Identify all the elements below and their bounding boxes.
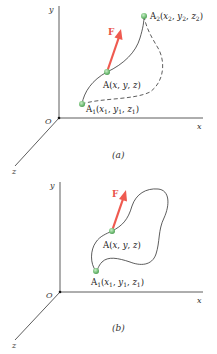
point-a-b [109,228,115,234]
origin-label-b: O [46,291,53,300]
force-arrow-b [112,199,123,231]
point-a1-a [79,101,85,107]
force-label-b: F [112,189,119,199]
panel-a: O y x z F A2(x2, y2, z2) A(x, y, z) A1(x… [11,5,203,176]
z-axis-label-b: z [11,341,17,350]
caption-a: (a) [112,150,125,160]
label-a-b: A(x, y, z) [102,240,141,250]
force-arrowhead-b [119,190,127,202]
point-a1-b [93,268,99,274]
force-arrowhead-a [115,29,123,40]
dashed-path-a [82,16,163,104]
point-a-a [104,69,110,75]
panel-b: O y x z F A(x, y, z) A1(x1, y1, z1) (b) [11,181,203,350]
y-axis-label-a: y [48,5,54,14]
origin-dot-b [59,291,62,294]
z-axis-b [15,292,60,340]
label-a-a: A(x, y, z) [102,80,141,90]
x-axis-label-b: x [197,296,202,305]
caption-b: (b) [112,323,125,333]
origin-dot-a [58,117,61,120]
y-axis-label-b: y [49,181,55,190]
label-a1-a: A1(x1, y1, z1) [85,104,139,115]
x-axis-label-a: x [197,122,202,131]
label-a2-a: A2(x2, y2, z2) [149,11,203,22]
z-axis-a [15,118,59,166]
point-a2-a [141,13,147,19]
work-along-path-diagram: O y x z F A2(x2, y2, z2) A(x, y, z) A1(x… [0,0,217,354]
force-label-a: F [108,27,115,37]
label-a1-b: A1(x1, y1, z1) [90,277,144,288]
closed-path-b [92,189,168,271]
origin-label-a: O [45,117,52,126]
z-axis-label-a: z [11,167,17,176]
